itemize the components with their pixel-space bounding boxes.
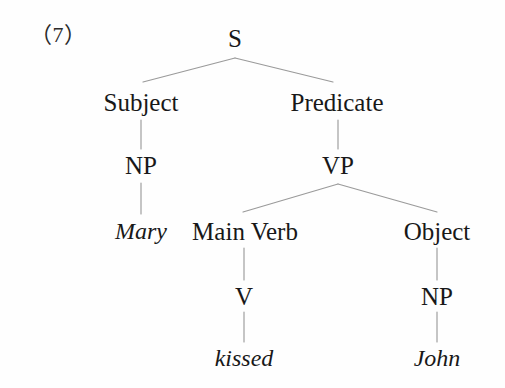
node-subject: Subject [104, 90, 179, 115]
node-s: S [228, 26, 242, 51]
tree-branch-lines [0, 0, 505, 388]
node-object-np: NP [421, 284, 453, 309]
node-kissed: kissed [215, 346, 274, 370]
branch-s-subject [143, 58, 235, 82]
node-object: Object [404, 219, 471, 244]
branch-s-predicate [235, 58, 333, 82]
branch-vp-object [338, 184, 437, 212]
example-number: （7） [30, 24, 87, 46]
node-john: John [414, 346, 461, 370]
node-subject-np: NP [125, 153, 157, 178]
node-v: V [235, 284, 253, 309]
syntax-tree-figure: （7） S Subject Predicate NP V [0, 0, 505, 388]
branch-vp-mainverb [243, 184, 338, 212]
node-vp: VP [322, 153, 354, 178]
node-mary: Mary [115, 219, 167, 243]
node-main-verb: Main Verb [192, 219, 298, 244]
node-predicate: Predicate [290, 90, 383, 115]
